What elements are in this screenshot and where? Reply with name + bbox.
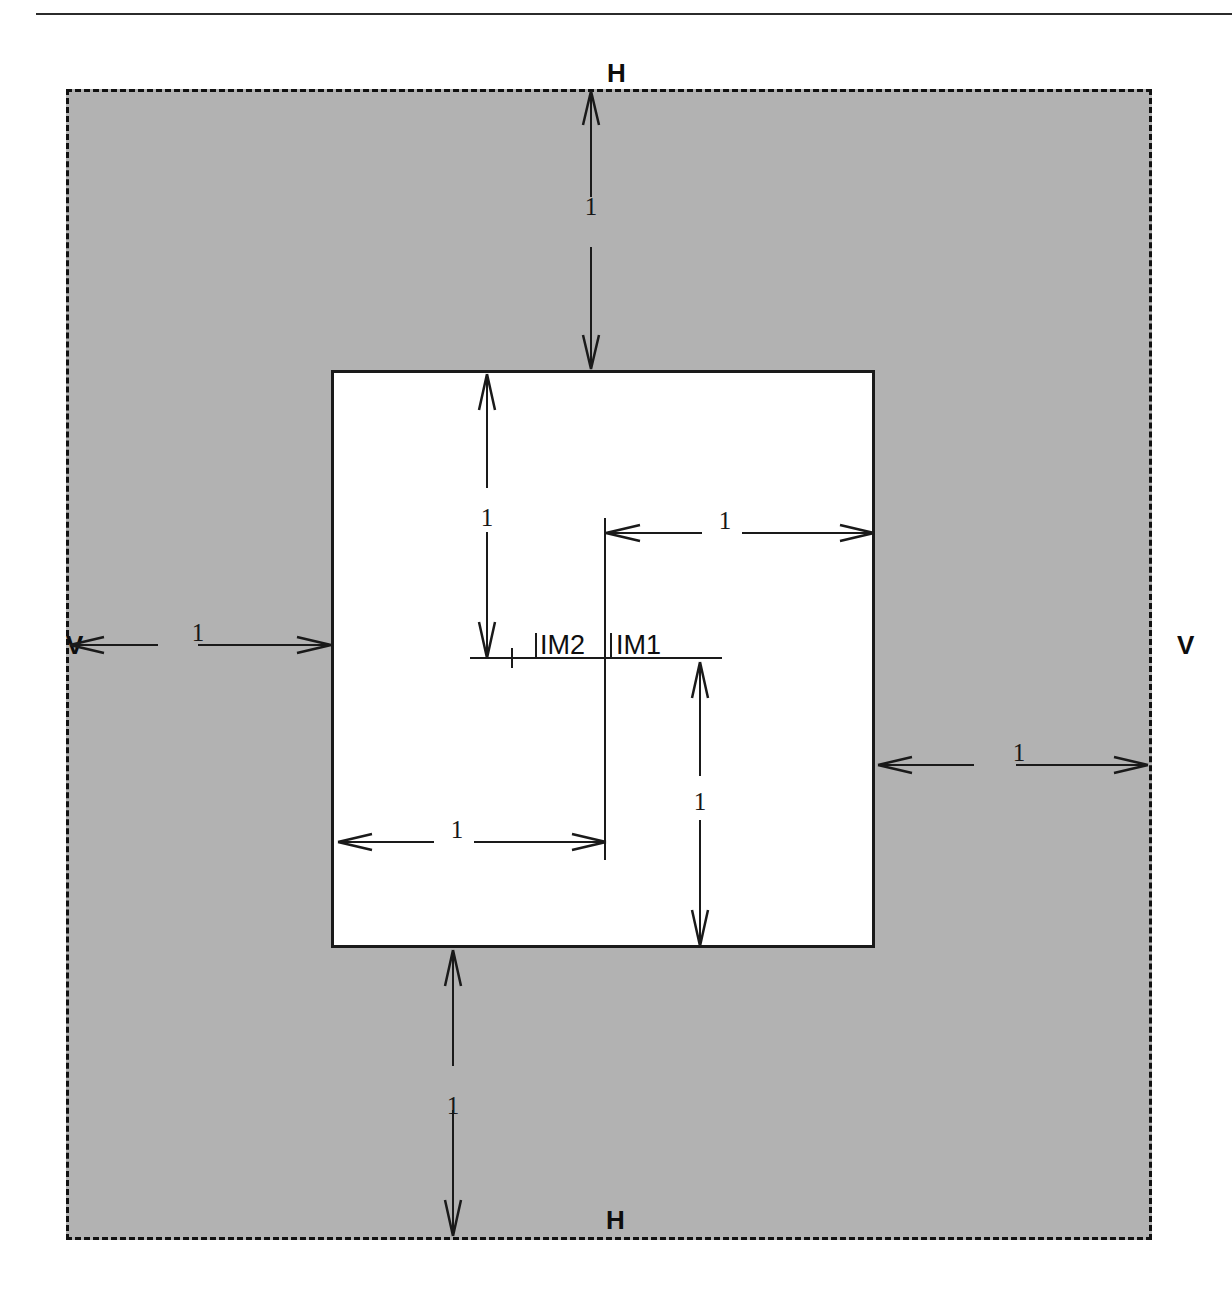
center-vertical-line — [604, 518, 606, 860]
dimension-value-inner-top: 1 — [467, 505, 507, 530]
dimension-value-right: 1 — [999, 740, 1039, 765]
polarization-label-h-top: H — [607, 60, 626, 86]
diagram-canvas: H H V V IM2 IM1 1 1 1 — [0, 0, 1232, 1291]
dimension-value-left: 1 — [178, 620, 218, 645]
dimension-value-inner-right: 1 — [705, 508, 745, 533]
dimension-value-top: 1 — [571, 194, 611, 219]
polarization-label-v-right: V — [1177, 632, 1194, 658]
marker-label-im1: IM1 — [616, 632, 661, 659]
marker-label-im2: IM2 — [540, 632, 585, 659]
header-rule — [36, 13, 1232, 15]
im2-tick — [535, 633, 537, 657]
dimension-value-bottom: 1 — [433, 1093, 473, 1118]
dimension-value-inner-left: 1 — [437, 817, 477, 842]
dimension-arrow-top — [571, 89, 611, 371]
dimension-value-inner-bottom: 1 — [680, 789, 720, 814]
polarization-label-h-bottom: H — [606, 1207, 625, 1233]
im1-tick — [610, 633, 612, 657]
